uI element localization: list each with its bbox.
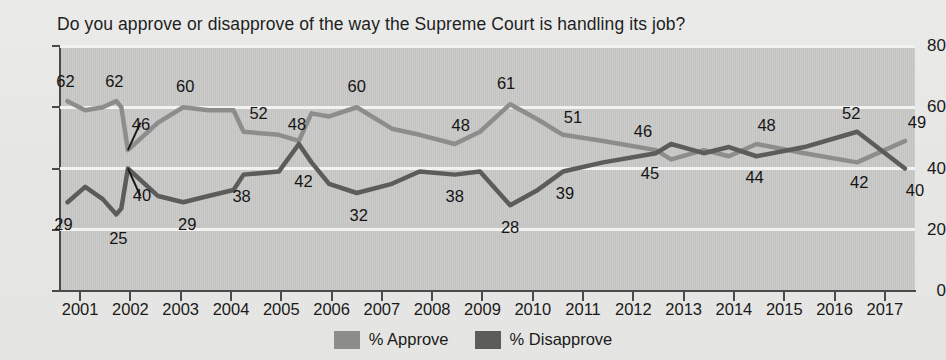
data-label: 62 xyxy=(56,72,74,91)
data-label: 29 xyxy=(178,215,196,234)
data-label: 42 xyxy=(850,173,868,192)
data-label: 40 xyxy=(133,185,151,204)
data-label: 44 xyxy=(745,168,763,187)
series-lines xyxy=(0,0,946,360)
data-label: 42 xyxy=(294,172,312,191)
legend-swatch-disapprove xyxy=(475,331,501,349)
data-label: 60 xyxy=(348,77,366,96)
legend-item[interactable]: % Disapprove xyxy=(475,330,613,349)
data-label: 51 xyxy=(564,107,582,126)
data-label: 46 xyxy=(634,122,652,141)
chart-page: Do you approve or disapprove of the way … xyxy=(0,0,946,360)
data-label: 48 xyxy=(452,116,470,135)
data-label: 40 xyxy=(906,180,924,199)
data-label: 46 xyxy=(132,115,150,134)
data-label: 32 xyxy=(350,206,368,225)
disapprove-line xyxy=(68,132,905,215)
data-label: 52 xyxy=(842,103,860,122)
data-label: 39 xyxy=(556,183,574,202)
data-label: 45 xyxy=(641,164,659,183)
data-label: 61 xyxy=(497,74,515,93)
data-label: 48 xyxy=(757,116,775,135)
legend-item[interactable]: % Approve xyxy=(334,330,449,349)
data-label: 52 xyxy=(249,103,267,122)
data-label: 25 xyxy=(109,229,127,248)
chart-legend: % Approve% Disapprove xyxy=(0,330,946,349)
data-label: 38 xyxy=(446,186,464,205)
data-label: 62 xyxy=(105,72,123,91)
data-label: 48 xyxy=(288,115,306,134)
data-label: 60 xyxy=(176,77,194,96)
data-label: 28 xyxy=(501,218,519,237)
legend-label: % Disapprove xyxy=(510,330,613,349)
data-label: 29 xyxy=(54,215,72,234)
legend-swatch-approve xyxy=(334,331,360,349)
data-label: 49 xyxy=(908,112,926,131)
data-label: 38 xyxy=(232,186,250,205)
legend-label: % Approve xyxy=(369,330,449,349)
